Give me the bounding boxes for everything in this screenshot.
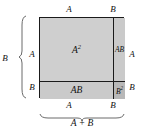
region-ab-bottom-label: AB [71, 86, 83, 96]
region-ab-right: AB [113, 18, 125, 81]
left-sum-label: + B [0, 54, 8, 63]
dimension-label-top-a: A [62, 5, 76, 14]
region-ab-bottom: AB [40, 81, 113, 99]
diagram-canvas: A B + B A B A2 AB AB B2 A B A B A + B [0, 0, 144, 134]
dimension-label-right-b: B [127, 83, 137, 92]
region-b-squared: B2 [113, 81, 125, 99]
region-b-squared-label: B2 [116, 86, 123, 95]
bottom-brace [39, 108, 125, 117]
bottom-sum-label: A + B [39, 119, 125, 129]
square-diagram: A2 AB AB B2 [39, 17, 124, 98]
dimension-label-left-a: A [27, 50, 37, 59]
region-ab-right-label: AB [115, 46, 124, 54]
dimension-label-left-b: B [27, 83, 37, 92]
dimension-label-right-a: A [127, 50, 137, 59]
dimension-label-top-b: B [106, 5, 120, 14]
region-a-squared-label: A2 [72, 44, 81, 56]
region-a-squared: A2 [40, 18, 113, 81]
